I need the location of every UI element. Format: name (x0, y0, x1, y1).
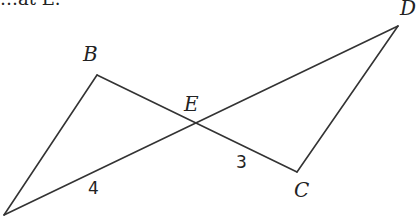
segment-ab (4, 75, 97, 215)
length-ec: 3 (236, 154, 247, 171)
geometry-diagram: …at E. B E C D 4 3 (0, 0, 420, 224)
segment-ad (4, 26, 398, 215)
length-ae: 4 (88, 180, 99, 197)
diagram-lines (0, 0, 420, 224)
label-c: C (294, 180, 309, 200)
label-d: D (400, 0, 416, 18)
label-b: B (83, 44, 98, 64)
label-e: E (184, 94, 199, 114)
segment-cd (297, 26, 398, 172)
